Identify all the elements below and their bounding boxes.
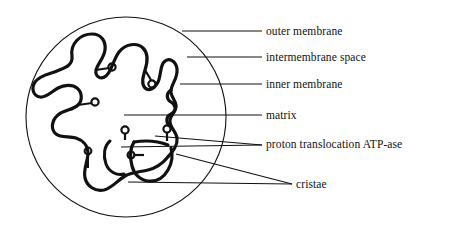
atpase-particles-group — [78, 63, 171, 168]
atpase-particle-5 — [121, 126, 128, 140]
label-intermembrane-space: intermembrane space — [266, 52, 366, 64]
atpase-knob — [91, 98, 98, 105]
label-inner-membrane: inner membrane — [266, 79, 342, 91]
atpase-particle-6 — [163, 125, 170, 141]
inner-membrane-path — [33, 34, 177, 190]
mitochondrion-diagram: outer membrane intermembrane space inner… — [0, 0, 470, 238]
label-cristae: cristae — [296, 179, 327, 191]
atpase-knob — [148, 80, 155, 87]
inner-membrane-group — [33, 34, 177, 190]
atpase-knob — [163, 125, 170, 132]
leader-line-atpase-upper — [155, 136, 262, 145]
diagram-canvas — [0, 0, 470, 238]
leader-line-cristae-upper — [176, 154, 292, 184]
label-proton-translocation-atpase: proton translocation ATP-ase — [266, 139, 402, 151]
cristae-shelf — [134, 141, 168, 145]
atpase-knob — [121, 126, 128, 133]
label-matrix: matrix — [266, 110, 297, 122]
atpase-particle-2 — [145, 70, 156, 88]
atpase-stalk — [145, 70, 151, 80]
label-outer-membrane: outer membrane — [266, 26, 342, 38]
leader-line-cristae-lower — [128, 182, 292, 184]
leader-line-atpase-lower — [121, 145, 262, 147]
cristae-loop-lower-left — [104, 141, 124, 175]
